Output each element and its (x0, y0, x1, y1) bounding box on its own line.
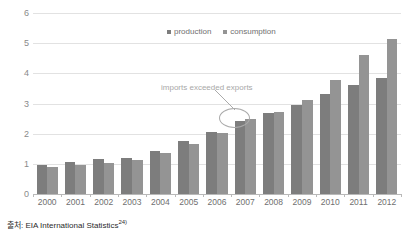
x-axis-tick-label: 2000 (33, 197, 61, 207)
bar-group (146, 13, 174, 194)
bar-group (316, 13, 344, 194)
legend-item-consumption: consumption (223, 27, 275, 36)
bar-consumption-2004 (160, 153, 171, 194)
x-axis-tick-label: 2006 (203, 197, 231, 207)
bar-consumption-2012 (387, 39, 398, 194)
bar-consumption-2002 (104, 163, 115, 194)
annotation-ellipse-highlight (219, 108, 250, 128)
x-axis-tick-label: 2009 (288, 197, 316, 207)
bar-group (344, 13, 372, 194)
bar-consumption-2006 (217, 133, 228, 194)
y-axis-tick-label: 6 (9, 9, 29, 18)
bar-group (90, 13, 118, 194)
x-axis-tick-mark (401, 194, 402, 197)
x-axis-tick-label: 2011 (344, 197, 372, 207)
bar-production-2007 (235, 121, 246, 194)
legend-label-consumption: consumption (230, 27, 275, 36)
bar-production-2011 (348, 85, 359, 194)
y-axis-tick-label: 3 (9, 100, 29, 109)
bar-consumption-2005 (189, 144, 200, 194)
bar-group (175, 13, 203, 194)
legend-swatch-consumption-icon (223, 30, 227, 34)
bar-production-2012 (376, 78, 387, 194)
bar-production-2001 (65, 162, 76, 194)
x-axis-tick-label: 2001 (61, 197, 89, 207)
bar-production-2005 (178, 141, 189, 194)
legend-item-production: production (167, 27, 211, 36)
bar-group (259, 13, 287, 194)
x-axis-tick-label: 2010 (316, 197, 344, 207)
bar-consumption-2007 (245, 119, 256, 194)
bar-group (231, 13, 259, 194)
plot-area (33, 13, 401, 194)
bar-production-2010 (320, 94, 331, 194)
bar-consumption-2003 (132, 160, 143, 194)
y-axis-tick-label: 4 (9, 69, 29, 78)
bar-group (61, 13, 89, 194)
x-axis-tick-label: 2012 (373, 197, 401, 207)
bar-group (373, 13, 401, 194)
bar-consumption-2000 (47, 167, 58, 194)
chart-figure: 0123456 20002001200220032004200520062007… (0, 0, 410, 239)
bar-production-2003 (121, 158, 132, 194)
source-footnote-marker: 24) (118, 219, 127, 225)
legend-label-production: production (174, 27, 211, 36)
bar-group (118, 13, 146, 194)
source-text: 출처: EIA International Statistics (7, 221, 118, 230)
source-caption: 출처: EIA International Statistics24) (7, 219, 127, 230)
y-axis-tick-label: 0 (9, 190, 29, 199)
y-axis-tick-label: 5 (9, 39, 29, 48)
x-axis-tick-label: 2005 (175, 197, 203, 207)
x-axis-line (33, 194, 401, 195)
bar-consumption-2010 (330, 80, 341, 194)
bar-production-2004 (150, 151, 161, 194)
bar-group (203, 13, 231, 194)
x-axis-tick-label: 2002 (90, 197, 118, 207)
bar-production-2009 (291, 105, 302, 194)
bar-production-2000 (37, 165, 48, 194)
bar-consumption-2011 (359, 55, 370, 194)
x-axis-tick-label: 2008 (259, 197, 287, 207)
x-axis-tick-label: 2003 (118, 197, 146, 207)
bar-production-2006 (206, 132, 217, 194)
y-axis-tick-label: 2 (9, 130, 29, 139)
annotation-label: imports exceeded exports (161, 83, 253, 92)
x-axis-tick-label: 2007 (231, 197, 259, 207)
x-axis-tick-label: 2004 (146, 197, 174, 207)
y-axis-tick-label: 1 (9, 160, 29, 169)
bar-group (288, 13, 316, 194)
bar-consumption-2008 (274, 112, 285, 194)
legend-swatch-production-icon (167, 30, 171, 34)
bar-production-2002 (93, 159, 104, 194)
bar-production-2008 (263, 113, 274, 194)
bar-group (33, 13, 61, 194)
bar-consumption-2009 (302, 100, 313, 194)
bar-consumption-2001 (75, 165, 86, 194)
chart-legend: production consumption (167, 27, 276, 36)
